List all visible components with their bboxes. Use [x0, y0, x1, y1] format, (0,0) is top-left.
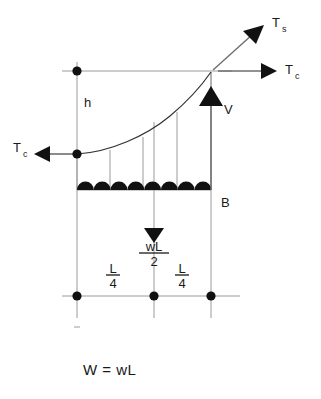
tension-right-label: T: [285, 62, 293, 77]
span-left-denominator-label: 4: [109, 276, 116, 291]
cable-curve: [77, 72, 211, 154]
span-right-numerator-label: L: [178, 261, 185, 276]
load-scallop: [94, 182, 111, 190]
vertical-reaction-arrowhead: [199, 86, 223, 106]
vertical-reaction-arrow: [199, 86, 223, 190]
tension-left-arrowhead: [34, 146, 50, 162]
span-left-numerator-label: L: [109, 261, 116, 276]
tension-support-sublabel: s: [282, 24, 287, 34]
tension-right-arrowhead: [261, 63, 277, 79]
cable-load-diagram: T s T c T c V h B wL 2 L 4 L 4 W = wL: [0, 0, 321, 399]
load-scallop: [161, 182, 178, 190]
node-dot-dim-left: [72, 291, 81, 300]
load-numerator-label: wL: [145, 239, 163, 254]
tension-support-label: T: [272, 15, 280, 30]
tension-support-arrow: [213, 25, 264, 70]
tension-right-sublabel: c: [295, 71, 300, 81]
diagram-canvas: T s T c T c V h B wL 2 L 4 L 4 W = wL: [0, 0, 321, 399]
tension-left-label: T: [13, 140, 21, 155]
tension-left-arrow: [34, 146, 74, 162]
load-scallop: [195, 182, 212, 190]
load-scallop: [111, 182, 128, 190]
node-dot-dim-mid: [149, 291, 158, 300]
tension-support-arrowhead: [243, 25, 264, 44]
load-scallop: [77, 182, 94, 190]
fraction-bars: [106, 253, 189, 275]
load-denominator-label: 2: [150, 254, 157, 269]
tension-support-shaft: [213, 34, 253, 70]
vertical-reaction-label: V: [224, 102, 233, 117]
span-right-denominator-label: 4: [178, 276, 185, 291]
distributed-load-region: [77, 182, 211, 190]
node-dot-low-point: [72, 149, 81, 158]
node-dot-dim-right: [206, 291, 215, 300]
node-dot-top-left: [72, 66, 81, 75]
sag-height-label: h: [84, 95, 91, 110]
low-point-label: B: [221, 195, 230, 210]
load-scallops: [77, 182, 211, 190]
load-scallop: [178, 182, 195, 190]
load-scallop: [127, 182, 144, 190]
tension-left-sublabel: c: [23, 149, 28, 159]
total-load-equation: W = wL: [83, 361, 136, 378]
hanger-lines: [77, 72, 211, 190]
tension-right-arrow: [218, 63, 277, 79]
joint-dots: [72, 66, 215, 300]
load-scallop: [144, 182, 161, 190]
